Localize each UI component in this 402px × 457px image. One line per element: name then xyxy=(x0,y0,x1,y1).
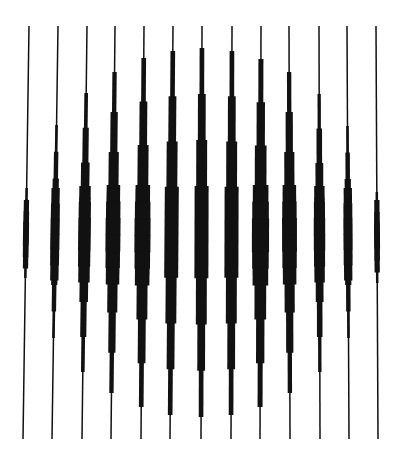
line-step xyxy=(135,268,150,285)
line-pattern-canvas xyxy=(0,0,402,457)
line-step xyxy=(252,218,269,235)
line-step xyxy=(282,251,296,268)
line-step xyxy=(282,202,296,219)
line-step xyxy=(253,185,269,202)
line-step xyxy=(79,202,91,219)
line-step xyxy=(78,250,90,267)
line-step xyxy=(225,187,239,232)
line-step xyxy=(106,268,120,285)
line-step xyxy=(165,187,179,232)
line-step xyxy=(374,236,380,249)
line-step xyxy=(314,186,324,203)
line-step xyxy=(23,245,29,257)
line-step xyxy=(343,234,352,250)
line-step xyxy=(314,234,325,251)
line-step xyxy=(164,232,178,278)
line-step xyxy=(252,202,269,219)
line-step xyxy=(50,265,59,281)
line-step xyxy=(134,218,150,235)
line-step xyxy=(23,234,29,246)
line-step xyxy=(105,235,120,252)
line-step xyxy=(194,232,208,278)
line-step xyxy=(195,186,209,232)
line-step xyxy=(78,266,90,283)
line-step xyxy=(134,252,150,269)
line-step xyxy=(375,260,380,273)
line-step xyxy=(343,203,352,219)
line-step xyxy=(135,202,151,219)
line-step xyxy=(344,265,352,281)
line-step xyxy=(282,218,297,235)
line-step xyxy=(51,188,60,204)
line-step xyxy=(314,202,325,219)
line-step xyxy=(283,185,297,202)
line-step xyxy=(51,203,60,219)
line-step xyxy=(105,251,120,268)
line-step xyxy=(344,188,352,204)
line-step xyxy=(283,268,297,285)
line-step xyxy=(282,235,297,252)
line-step xyxy=(78,218,91,235)
line-step xyxy=(134,235,150,252)
line-step xyxy=(106,218,121,235)
line-step xyxy=(314,266,324,283)
line-step xyxy=(106,202,121,219)
line-step xyxy=(374,248,380,261)
line-step xyxy=(50,219,59,235)
line-step xyxy=(252,235,269,252)
line-step xyxy=(344,249,353,265)
line-step xyxy=(50,249,59,265)
line-step xyxy=(374,212,380,225)
line-step xyxy=(374,200,379,213)
line-step xyxy=(79,186,91,203)
line-step xyxy=(23,223,29,235)
line-step xyxy=(50,234,59,250)
line-step xyxy=(78,234,91,251)
line-step xyxy=(343,219,352,235)
line-step xyxy=(24,200,29,212)
line-step xyxy=(253,268,269,285)
line-step xyxy=(314,250,325,267)
line-step xyxy=(135,185,150,202)
line-step xyxy=(23,211,29,223)
line-step xyxy=(252,252,269,269)
line-step xyxy=(314,218,325,235)
line-step xyxy=(107,185,121,202)
line-step xyxy=(224,232,238,278)
line-step xyxy=(23,257,28,269)
line-step xyxy=(374,224,380,237)
